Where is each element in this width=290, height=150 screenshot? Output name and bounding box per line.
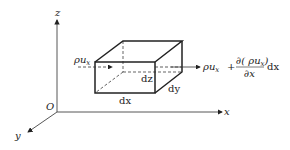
coordinate-axes: z x y O — [14, 7, 230, 141]
hidden-edge-diagonal — [95, 72, 123, 93]
dy-label: dy — [168, 83, 180, 94]
svg-text:∂( ρux): ∂( ρux) — [236, 55, 269, 68]
y-axis-label: y — [14, 130, 21, 141]
y-axis — [28, 112, 57, 132]
svg-text:∂x: ∂x — [244, 68, 255, 79]
x-axis-label: x — [224, 106, 230, 117]
outflow-label: ρux + ∂( ρux) ∂x dx — [202, 55, 279, 79]
svg-text:ρux: ρux — [73, 54, 90, 67]
box-top-edges — [95, 41, 182, 62]
svg-text:dx: dx — [267, 61, 279, 72]
control-volume-diagram: z x y O dz dx dy ρux ρux + ∂( ρux) ∂x dx — [0, 0, 290, 150]
dz-label: dz — [141, 73, 153, 84]
dx-label: dx — [119, 95, 131, 106]
z-axis-label: z — [54, 7, 61, 18]
svg-text:ρux: ρux — [202, 61, 219, 74]
svg-text:+: + — [227, 61, 235, 72]
origin-label: O — [46, 101, 54, 112]
inflow-label: ρux — [73, 54, 90, 67]
